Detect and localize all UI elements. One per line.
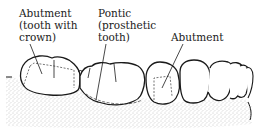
label-line: Pontic (98, 7, 156, 19)
label-line: tooth) (98, 31, 156, 43)
label-pontic: Pontic (prosthetic tooth) (98, 7, 156, 43)
abutment-left-tooth (21, 56, 80, 95)
label-line: (tooth with (19, 19, 78, 31)
natural-tooth (180, 60, 210, 103)
label-line: (prosthetic (98, 19, 156, 31)
label-line: crown) (19, 31, 78, 43)
abutment-right-tooth (146, 62, 179, 104)
label-line: Abutment (171, 31, 223, 43)
natural-tooth (246, 67, 253, 98)
label-line: Abutment (19, 7, 78, 19)
dental-bridge-diagram: Abutment (tooth with crown) Pontic (pros… (0, 0, 257, 133)
label-abutment-right: Abutment (171, 31, 223, 43)
label-abutment-left: Abutment (tooth with crown) (19, 7, 78, 43)
natural-tooth (208, 61, 233, 100)
